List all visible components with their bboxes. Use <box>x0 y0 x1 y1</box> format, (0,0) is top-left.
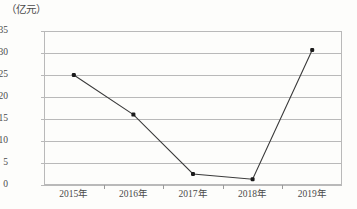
data-point-marker <box>131 113 135 117</box>
x-axis-tick-label: 2017年 <box>179 189 208 200</box>
data-point-marker <box>191 172 195 176</box>
series-polyline <box>74 50 312 179</box>
x-axis-tick-mark <box>104 185 105 189</box>
x-axis-tick-label: 2015年 <box>59 189 88 200</box>
y-axis-tick-label: 35 <box>0 26 8 36</box>
plot-area <box>44 31 342 185</box>
data-point-marker <box>72 73 76 77</box>
y-axis-tick-label: 0 <box>0 180 8 190</box>
y-axis-unit-label: （亿元） <box>6 1 46 16</box>
y-axis-tick-label: 20 <box>0 92 8 102</box>
x-axis-tick-mark <box>282 185 283 189</box>
x-axis-tick-mark <box>223 185 224 189</box>
data-series-line <box>44 31 342 185</box>
x-axis-tick-label: 2016年 <box>119 189 148 200</box>
line-chart-figure: （亿元） 05101520253035 2015年2016年2017年2018年… <box>0 0 357 209</box>
x-axis-tick-label: 2019年 <box>298 189 327 200</box>
y-axis-tick-label: 15 <box>0 114 8 124</box>
y-axis-tick-label: 30 <box>0 48 8 58</box>
x-axis-tick-mark <box>163 185 164 189</box>
y-axis-tick-label: 10 <box>0 136 8 146</box>
x-axis-tick-label: 2018年 <box>238 189 267 200</box>
y-axis-tick-label: 5 <box>0 158 8 168</box>
y-axis-tick-label: 25 <box>0 70 8 80</box>
data-point-marker <box>251 177 255 181</box>
data-point-marker <box>310 48 314 52</box>
